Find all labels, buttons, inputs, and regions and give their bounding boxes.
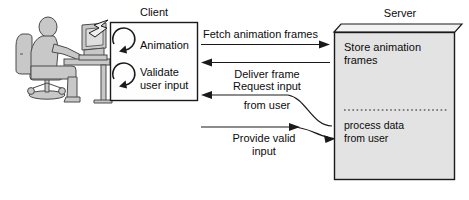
- message-label-fetch-animation-frames: Fetch animation frames: [203, 28, 318, 40]
- client-title: Client: [110, 6, 198, 18]
- server-block-process-line2: from user: [344, 133, 388, 145]
- server-title: Server: [360, 7, 440, 19]
- client-task-validate-label-line2: user input: [140, 79, 188, 91]
- server-block-store-line2: frames: [344, 54, 378, 66]
- arrow-deliver-frame: [201, 59, 330, 67]
- client-task-validate-label-line1: Validate: [140, 66, 179, 78]
- server-block-store-line1: Store animation: [344, 41, 421, 53]
- message-label-deliver-frame: Deliver frame: [203, 68, 331, 80]
- message-label-provide-valid-input-line2: input: [200, 145, 328, 157]
- diagram-canvas: Client Animation Validate user input Ser…: [0, 0, 469, 200]
- server-block-process-line1: process data: [344, 120, 404, 132]
- client-task-animation-label: Animation: [140, 39, 189, 51]
- message-label-request-input-line2: from user: [203, 99, 331, 111]
- message-label-provide-valid-input-line1: Provide valid: [200, 132, 328, 144]
- arrow-fetch-animation-frames: [201, 41, 330, 49]
- message-label-request-input-line1: Request input: [203, 80, 331, 92]
